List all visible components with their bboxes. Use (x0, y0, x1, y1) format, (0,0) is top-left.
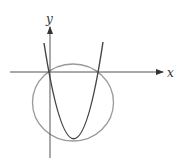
parabola (44, 42, 103, 139)
circle (33, 64, 114, 141)
x-axis-label: x (167, 66, 174, 80)
diagram: x y (0, 0, 184, 163)
y-axis-label: y (45, 12, 53, 26)
